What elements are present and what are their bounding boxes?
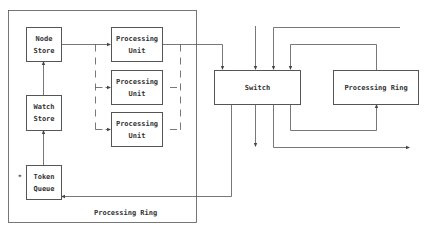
token-queue-label-1: Token bbox=[33, 171, 54, 183]
processing-unit-3-box: Processing Unit bbox=[111, 112, 163, 147]
token-queue-box: Token Queue bbox=[26, 165, 62, 200]
switch-to-ring-line bbox=[291, 104, 377, 131]
switch-input-3 bbox=[274, 28, 401, 69]
arrowhead-right-output bbox=[406, 146, 410, 149]
node-store-label-2: Store bbox=[33, 45, 54, 57]
right-processing-ring-box: Processing Ring bbox=[333, 70, 419, 105]
diagram-lines bbox=[0, 0, 428, 232]
switch-label: Switch bbox=[245, 82, 270, 94]
processing-unit-3-label-2: Unit bbox=[129, 130, 146, 142]
processing-unit-2-label-2: Unit bbox=[129, 88, 146, 100]
node-store-box: Node Store bbox=[26, 27, 62, 62]
right-processing-ring-label: Processing Ring bbox=[344, 82, 407, 94]
watch-store-box: Watch Store bbox=[26, 95, 62, 131]
processing-unit-1-label-2: Unit bbox=[129, 45, 146, 57]
processing-unit-1-box: Processing Unit bbox=[111, 27, 163, 62]
marker-asterisk: * bbox=[18, 173, 22, 180]
ring-to-switch-line bbox=[291, 45, 377, 71]
pu-to-switch-line bbox=[162, 45, 223, 69]
processing-unit-1-label-1: Processing bbox=[116, 33, 158, 45]
watch-store-label-1: Watch bbox=[33, 101, 54, 113]
outer-processing-ring-label: Processing Ring bbox=[94, 209, 157, 217]
processing-unit-2-box: Processing Unit bbox=[111, 70, 163, 105]
processing-unit-3-label-1: Processing bbox=[116, 118, 158, 130]
arrowhead-down-output bbox=[254, 143, 257, 147]
switch-output-right bbox=[274, 104, 409, 148]
watch-store-label-2: Store bbox=[33, 113, 54, 125]
switch-box: Switch bbox=[214, 70, 301, 105]
processing-unit-2-label-1: Processing bbox=[116, 76, 158, 88]
node-store-label-1: Node bbox=[36, 33, 53, 45]
token-queue-label-2: Queue bbox=[33, 183, 54, 195]
